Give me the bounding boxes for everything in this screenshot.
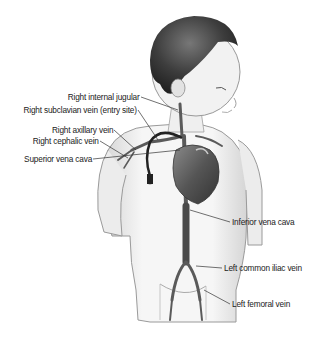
label-left-femoral-vein: Left femoral vein <box>232 298 290 309</box>
label-left-common-iliac-vein: Left common iliac vein <box>224 262 302 273</box>
head-icon <box>150 16 240 116</box>
anatomy-diagram: Right internal jugular Right subclavian … <box>0 0 322 358</box>
label-inferior-vena-cava: Inferior vena cava <box>232 216 294 227</box>
label-right-axillary-vein: Right axillary vein <box>52 124 113 135</box>
catheter-hub-icon <box>147 174 153 184</box>
label-right-cephalic-vein: Right cephalic vein <box>33 135 99 146</box>
label-superior-vena-cava: Superior vena cava <box>24 153 92 164</box>
label-right-subclavian-vein: Right subclavian vein (entry site) <box>24 104 137 115</box>
label-right-internal-jugular: Right internal jugular <box>68 91 140 102</box>
